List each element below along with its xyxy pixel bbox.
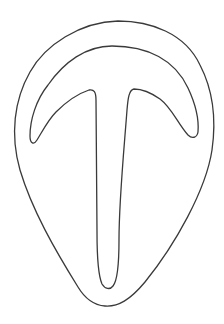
outer-teardrop-outline bbox=[15, 21, 214, 306]
inner-t-arc-outline bbox=[30, 46, 198, 288]
drawing-canvas bbox=[0, 0, 224, 324]
